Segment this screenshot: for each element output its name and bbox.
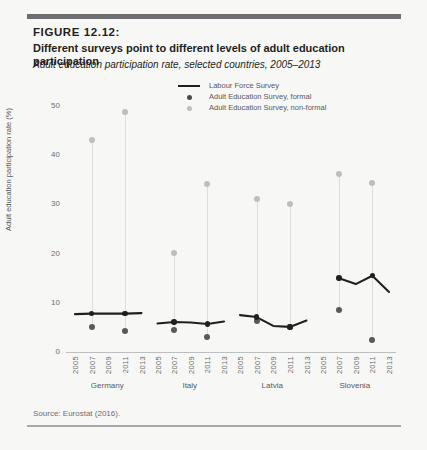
lfs-line [75,313,142,314]
legend-item-label: Labour Force Survey [209,81,279,90]
data-point-lfs [205,321,211,327]
x-axis-tick-label: 2007 [253,356,262,374]
x-axis-tick-label: 2005 [319,356,328,374]
panel-country-label: Italy [149,381,232,390]
figure-subtitle: Adult education participation rate, sele… [33,58,413,71]
x-axis-tick-label: 2011 [203,356,212,373]
x-axis-tick-label: 2013 [138,356,147,374]
figure-number: FIGURE 12.12: [33,26,120,38]
x-axis-tick-label: 2005 [71,356,80,374]
x-axis-tick-label: 2009 [352,356,361,374]
legend-line-icon [178,80,204,91]
y-axis-tick-label: 20 [38,249,60,258]
y-axis-tick-label: 50 [38,101,60,110]
x-axis-tick-label: 2013 [385,356,394,374]
connector-stem [125,112,126,331]
x-axis-tick-label: 2005 [236,356,245,374]
x-axis-tick-label: 2007 [335,356,344,374]
data-point-non-formal [122,109,128,115]
y-axis-tick-label: 10 [38,298,60,307]
x-axis-tick-label: 2009 [104,356,113,374]
y-axis-tick-label: 40 [38,150,60,159]
source-note: Source: Eurostat (2016). [33,409,120,418]
plot-area [66,100,396,353]
connector-stem [207,184,208,338]
lfs-line [158,321,225,323]
connector-stem [372,183,373,340]
top-divider [27,14,401,19]
panel-country-label: Germany [66,381,149,390]
panel-country-label: Latvia [231,381,314,390]
data-point-non-formal [336,171,342,177]
connector-stem [92,140,93,327]
data-point-lfs [336,275,342,281]
x-axis-tick-label: 2011 [121,356,130,373]
x-axis-tick-label: 2007 [170,356,179,374]
data-point-non-formal [171,250,177,256]
connector-stem [257,199,258,321]
data-point-lfs [287,324,293,330]
y-axis-tick-label: 30 [38,199,60,208]
x-axis-tick-label: 2009 [187,356,196,374]
x-axis-tick-label: 2013 [303,356,312,374]
panel-country-label: Slovenia [314,381,397,390]
lfs-line [240,315,307,327]
labour-force-survey-lines [66,100,396,353]
x-axis-tick-label: 2013 [220,356,229,374]
data-point-formal [336,307,342,313]
data-point-lfs [122,311,128,317]
x-axis-tick-label: 2007 [88,356,97,374]
x-axis-tick-label: 2009 [269,356,278,374]
bottom-divider [27,425,401,427]
x-axis-tick-label: 2011 [286,356,295,373]
x-axis-tick-label: 2011 [368,356,377,373]
y-axis-title: Adult education participation rate (%) [4,50,13,290]
lfs-line [339,276,389,292]
figure-card: FIGURE 12.12: Different surveys point to… [0,0,427,450]
x-axis-tick-label: 2005 [154,356,163,374]
connector-stem [290,204,291,327]
y-axis-tick-label: 0 [38,347,60,356]
connector-stem [339,174,340,310]
data-point-lfs [171,319,177,325]
